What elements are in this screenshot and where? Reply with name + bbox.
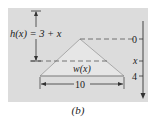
base-label: 10	[75, 79, 85, 90]
width-label: w(x)	[73, 63, 91, 75]
axis-tick-x: x	[132, 55, 138, 66]
figure-caption: (b)	[0, 104, 156, 116]
height-label: h(x) = 3 + x	[10, 28, 62, 40]
axis-tick-4: 4	[132, 71, 137, 82]
axis-tick-0: 0	[132, 34, 137, 45]
